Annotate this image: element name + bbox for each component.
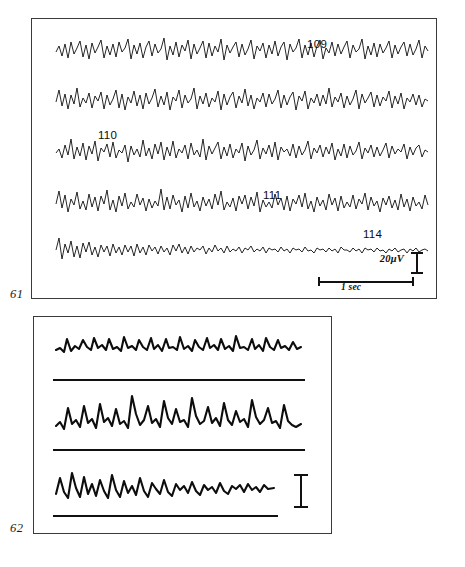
waveform-baseline-3 (53, 515, 278, 517)
eeg-trace-111 (56, 184, 428, 224)
calibration-time-label: 1 sec (341, 282, 361, 292)
waveform-trace-1 (56, 330, 301, 360)
waveform-baseline-2 (53, 449, 305, 451)
waveform-baseline-1 (53, 379, 305, 381)
eeg-trace-label-110: 110 (98, 129, 117, 141)
eeg-trace-unlabeled (56, 82, 428, 122)
eeg-trace-label-114: 114 (363, 228, 382, 240)
calibration-top-panel: 20μV 1 sec (297, 253, 425, 287)
figure-number-61: 61 (10, 287, 24, 302)
calibration-voltage-bar (411, 252, 423, 274)
waveform-trace-3 (56, 464, 274, 506)
eeg-trace-109 (56, 32, 428, 72)
calibration-time-bar (318, 277, 414, 286)
calibration-voltage-label: 20μV (380, 253, 404, 264)
eeg-trace-label-111: 111 (263, 189, 281, 201)
figure-number-62: 62 (10, 521, 24, 536)
calibration-bottom-panel (294, 474, 308, 508)
eeg-trace-label-109: 109 (307, 38, 327, 50)
waveform-trace-2 (56, 394, 301, 439)
